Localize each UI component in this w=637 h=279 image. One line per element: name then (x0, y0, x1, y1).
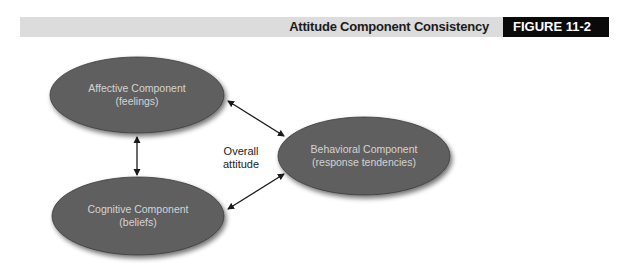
affective-sublabel: (feelings) (115, 95, 158, 107)
overall-attitude-label: Overall attitude (223, 145, 259, 170)
arrow-cognitive-behavioral-icon (228, 174, 284, 209)
affective-label: Affective Component (88, 82, 185, 94)
cognitive-component-node: Cognitive Component (beliefs) (52, 177, 224, 255)
overall-attitude-line2: attitude (223, 158, 259, 170)
arrow-affective-behavioral-icon (228, 101, 284, 136)
behavioral-sublabel: (response tendencies) (312, 156, 416, 168)
behavioral-label: Behavioral Component (311, 143, 418, 155)
attitude-diagram: Affective Component (feelings) Cognitive… (0, 0, 637, 279)
affective-component-node: Affective Component (feelings) (50, 57, 224, 133)
cognitive-label: Cognitive Component (88, 203, 189, 215)
behavioral-component-node: Behavioral Component (response tendencie… (278, 117, 450, 195)
overall-attitude-line1: Overall (224, 145, 259, 157)
cognitive-sublabel: (beliefs) (119, 216, 156, 228)
